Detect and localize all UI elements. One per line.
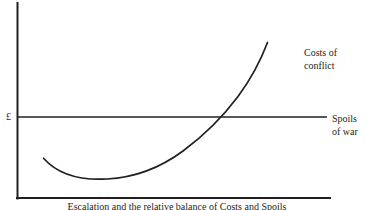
x-axis-caption: Escalation and the relative balance of C… — [17, 201, 337, 210]
chart-plot-area — [0, 0, 367, 210]
series-label-spoils-line-1: Spoils — [332, 112, 358, 125]
series-label-costs-of-conflict: Costs of conflict — [304, 46, 337, 72]
series-label-costs-line-1: Costs of — [304, 46, 337, 59]
series-label-spoils-line-2: of war — [332, 125, 358, 138]
costs-of-conflict-curve — [44, 43, 268, 180]
y-axis-unit-label: £ — [6, 112, 11, 122]
series-label-spoils-of-war: Spoils of war — [332, 112, 358, 138]
series-label-costs-line-2: conflict — [304, 59, 337, 72]
chart-figure: £ Costs of conflict Spoils of war Escala… — [0, 0, 367, 210]
